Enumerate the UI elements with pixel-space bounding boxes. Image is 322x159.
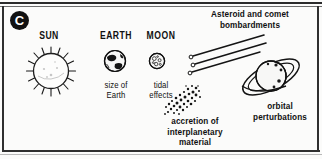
frame-border-top-thin bbox=[0, 6, 322, 7]
earth-heading: EARTH bbox=[92, 30, 140, 41]
sun-with-rays-icon bbox=[22, 42, 80, 100]
frame-border-bottom bbox=[2, 150, 320, 152]
cratered-moon-icon bbox=[148, 52, 166, 70]
ringed-planet-icon bbox=[238, 52, 308, 104]
moon-heading: MOON bbox=[137, 30, 185, 41]
sun-heading: SUN bbox=[25, 30, 73, 41]
accretion-caption: accretion of interplanetary material bbox=[153, 116, 237, 148]
figure-panel: C SUN bbox=[0, 0, 322, 159]
orbital-perturbations-caption: orbital perturbations bbox=[248, 101, 312, 122]
earth-globe-icon bbox=[103, 49, 127, 73]
frame-border-left bbox=[2, 6, 4, 152]
asteroid-bombardment-caption: Asteroid and comet bombardments bbox=[195, 9, 305, 30]
frame-border-right bbox=[317, 6, 319, 152]
earth-caption: size of Earth bbox=[90, 80, 142, 100]
frame-border-bottom-thin bbox=[0, 154, 322, 155]
frame-border-top bbox=[0, 2, 322, 4]
scattered-particles-icon bbox=[162, 84, 206, 116]
panel-letter-badge: C bbox=[10, 11, 29, 30]
